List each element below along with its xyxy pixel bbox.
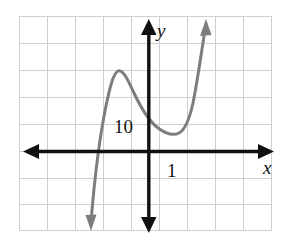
graph-figure: y x 10 1 (0, 0, 290, 245)
x-axis-left-arrowhead (23, 144, 39, 159)
grid-vertical-lines (20, 16, 272, 230)
x-axis-label: x (262, 157, 272, 178)
x-axis-tick-label-1: 1 (167, 160, 177, 181)
curve-start-arrowhead (86, 215, 97, 232)
y-axis-tick-label-10: 10 (114, 116, 133, 137)
grid (19, 16, 272, 231)
coordinate-plane-svg: y x 10 1 (0, 0, 290, 245)
y-axis-label: y (155, 20, 166, 41)
y-axis-top-arrowhead (141, 19, 157, 35)
grid-horizontal-lines (19, 17, 272, 231)
curve-end-arrowhead (200, 19, 212, 36)
